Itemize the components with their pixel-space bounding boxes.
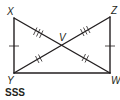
label-z: Z xyxy=(110,5,118,16)
label-x: X xyxy=(6,6,14,17)
caption-sss: SSS xyxy=(5,87,25,98)
label-v: V xyxy=(59,32,67,43)
sss-congruence-diagram: X Z V Y W SSS xyxy=(0,0,120,100)
label-y: Y xyxy=(7,75,15,86)
triple-tick-xv xyxy=(34,28,44,39)
triple-tick-vz xyxy=(81,26,91,36)
label-w: W xyxy=(111,75,120,86)
